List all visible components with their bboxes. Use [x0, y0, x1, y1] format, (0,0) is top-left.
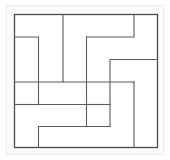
figure-canvas — [0, 0, 170, 160]
pinwheel-dissection-diagram — [0, 0, 170, 160]
